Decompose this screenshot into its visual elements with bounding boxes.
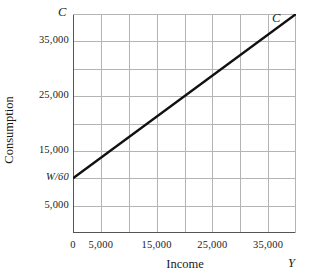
x-tick-label: 35,000 (253, 239, 283, 250)
plot-area (73, 14, 296, 233)
y-tick-label: 35,000 (7, 34, 69, 45)
x-tick-label: 25,000 (197, 239, 227, 250)
x-tick-label: 15,000 (142, 239, 172, 250)
consumption-function-chart: 5,000W/6015,00025,00035,000 05,00015,000… (0, 0, 311, 280)
chart-canvas (73, 14, 296, 233)
x-axis-title: Income (166, 257, 203, 272)
gridlines (73, 14, 296, 233)
x-axis-variable-name: Y (288, 256, 295, 271)
y-axis-title: Consumption (2, 96, 17, 163)
y-axis-variable-name: C (58, 5, 66, 20)
y-tick-label: 5,000 (7, 199, 69, 210)
series-label-consumption: C (272, 11, 280, 26)
y-tick-label: W/60 (7, 171, 69, 182)
x-tick-label: 0 (70, 239, 75, 250)
x-tick-label: 5,000 (89, 239, 114, 250)
axis-lines (73, 14, 296, 233)
